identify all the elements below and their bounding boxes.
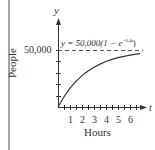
equation-label: y = 50,000(1 − e−0.4t): [61, 38, 136, 48]
x-tick-label-2: 2: [80, 115, 85, 125]
x-tick-label-5: 5: [116, 115, 121, 125]
equation-text: y = 50,000(1 − e: [61, 38, 122, 48]
x-axis-variable: t: [149, 103, 152, 113]
x-tick-label-3: 3: [92, 115, 97, 125]
y-axis-label: People: [6, 48, 18, 78]
exponential-curve: [58, 54, 140, 107]
y-axis-arrow-icon: [56, 18, 61, 25]
equation-exponent: −0.4t: [122, 38, 132, 43]
x-tick-label-6: 6: [128, 115, 133, 125]
y-axis-variable: y: [54, 5, 59, 16]
chart-canvas: [0, 0, 155, 150]
x-axis-arrow-icon: [140, 105, 147, 110]
x-axis-label: Hours: [84, 127, 111, 138]
y-tick-label-50000: 50,000: [24, 45, 52, 55]
x-tick-label-1: 1: [68, 115, 73, 125]
x-tick-label-4: 4: [104, 115, 109, 125]
